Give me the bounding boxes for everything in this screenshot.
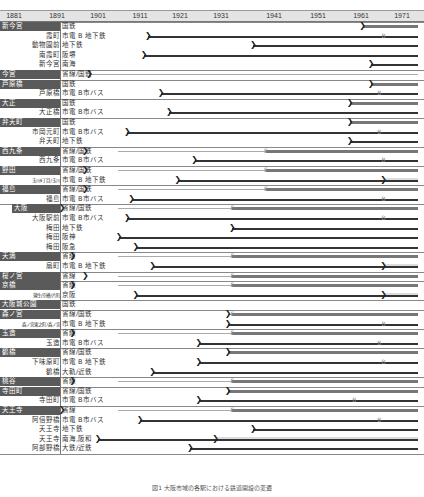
- timeline-row: 梅田阪神❯: [0, 233, 424, 242]
- column-divider: [60, 176, 61, 186]
- column-divider: [60, 368, 61, 378]
- station-name: 大阪駅前: [32, 214, 60, 223]
- column-divider: [60, 320, 61, 330]
- timeline-row: 天満省線E❯: [0, 252, 424, 261]
- timeline-segment: [148, 36, 418, 38]
- timeline-row: 鶴橋省線/国鉄❯: [0, 348, 424, 357]
- conversion-marker: B: [382, 156, 386, 163]
- axis-tick-label: 1931: [213, 12, 229, 19]
- timeline-row: 弁天町国鉄❯: [0, 118, 424, 127]
- electrified-segment: [232, 409, 418, 412]
- timeline-row: 大正国鉄❯: [0, 99, 424, 108]
- timeline-row: 大正橋市電 B市バス❯: [0, 108, 424, 117]
- group-label: 野田: [0, 166, 60, 175]
- timeline-row: 梅田阪急❯: [0, 243, 424, 252]
- column-divider: [60, 358, 61, 368]
- axis-tick-label: 1891: [49, 12, 65, 19]
- opening-marker: ❯: [69, 281, 76, 289]
- line-type: 京阪: [62, 291, 76, 300]
- line-type: 国鉄: [62, 22, 76, 31]
- electrification-marker: E: [230, 406, 234, 413]
- electrification-marker: E: [264, 185, 268, 192]
- opening-marker: ❯: [225, 348, 232, 356]
- axis-tick-label: 1921: [172, 12, 188, 19]
- electrified-segment: [232, 275, 418, 278]
- line-type: 大軌/近鉄: [62, 368, 92, 377]
- timeline-segment: [127, 132, 418, 134]
- change-marker: ❯: [380, 176, 387, 184]
- station-name: 天王寺: [39, 425, 60, 434]
- column-divider: [60, 128, 61, 138]
- column-divider: [60, 348, 61, 358]
- line-type: 市電 B 地下鉄: [62, 32, 106, 41]
- opening-marker: ❯: [225, 320, 232, 328]
- conversion-marker: B: [382, 32, 386, 39]
- line-type: 大鉄/近鉄: [62, 444, 92, 453]
- line-type: 市電 B市バス: [62, 108, 104, 117]
- opening-marker: ❯: [69, 252, 76, 260]
- line-type: 省線/国鉄: [62, 204, 92, 213]
- station-name: 玉川4丁目/玉川: [32, 176, 60, 185]
- timeline-row: 梅田地下鉄❯: [0, 224, 424, 233]
- timeline-segment: [350, 141, 418, 143]
- group-label: 京橋: [0, 281, 60, 290]
- line-type: 国鉄: [62, 99, 76, 108]
- electrification-marker: E: [264, 166, 268, 173]
- station-name: 玉造: [46, 339, 60, 348]
- line-type: 地下鉄: [62, 425, 83, 434]
- line-type: 国鉄: [62, 118, 76, 127]
- opening-marker: ❯: [347, 99, 354, 107]
- electrified-segment: [228, 351, 418, 354]
- timeline-row: 阿倍野橋市電 B市バス❯B: [0, 416, 424, 425]
- opening-marker: ❯: [128, 195, 135, 203]
- timeline-row: 玉川4丁目/玉川市電 B 地下鉄❯❯: [0, 176, 424, 185]
- conversion-marker: B: [377, 416, 381, 423]
- electrification-marker: E: [264, 147, 268, 154]
- line-type: 国鉄: [62, 80, 76, 89]
- group-label: 桜ノ宮: [0, 272, 60, 281]
- opening-marker: ❯: [149, 262, 156, 270]
- column-divider: [60, 262, 61, 272]
- station-name: 南霞町: [39, 51, 60, 60]
- column-divider: [60, 185, 61, 195]
- timeline-segment: [136, 295, 418, 297]
- group-label: 新今宮: [0, 22, 60, 31]
- timeline-segment: [132, 199, 418, 201]
- change-marker: ❯: [380, 291, 387, 299]
- axis-tick-label: 1941: [266, 12, 282, 19]
- timeline-segment: [169, 112, 418, 114]
- timeline-row: 寺田町省線/国鉄❯: [0, 387, 424, 396]
- axis-tick-label: 1971: [394, 12, 410, 19]
- timeline-row: 鶴橋大軌/近鉄❯: [0, 368, 424, 377]
- timeline-segment: [153, 266, 418, 268]
- line-type: 阪堺: [62, 51, 76, 60]
- group-label: 天満: [0, 252, 60, 261]
- timeline-segment: [118, 381, 232, 382]
- figure-caption: 図1 大阪市域の各駅における鉄道開設の変遷: [0, 483, 424, 492]
- electrified-segment: [266, 169, 418, 172]
- opening-marker: ❯: [359, 22, 366, 30]
- opening-marker: ❯: [82, 147, 89, 155]
- timeline-row: 大阪省線/国鉄E❯: [0, 204, 424, 213]
- electrified-segment: [371, 83, 418, 86]
- opening-marker: ❯: [347, 118, 354, 126]
- conversion-marker: B: [352, 396, 356, 403]
- timeline-row: 下味原町市電 B 地下鉄❯B: [0, 358, 424, 367]
- column-divider: [60, 425, 61, 435]
- group-label: 天王寺: [0, 406, 60, 415]
- line-type: 市電 B市バス: [62, 89, 104, 98]
- electrification-marker: E: [230, 281, 234, 288]
- station-name: 蒲生/京橋/片町: [33, 291, 60, 300]
- opening-marker: ❯: [82, 272, 89, 280]
- timeline-row: 動物園前地下鉄❯: [0, 41, 424, 50]
- opening-marker: ❯: [59, 406, 66, 414]
- electrified-segment: [350, 102, 418, 105]
- electrified-segment: [266, 188, 418, 191]
- station-name: 鶴橋: [46, 368, 60, 377]
- timeline-segment: [144, 55, 418, 57]
- axis-tick-label: 1881: [6, 12, 22, 19]
- group-label: 今宮: [0, 70, 60, 79]
- line-type: 国鉄: [62, 300, 76, 309]
- opening-marker: ❯: [124, 214, 131, 222]
- line-type: 南海,阪和: [62, 435, 92, 444]
